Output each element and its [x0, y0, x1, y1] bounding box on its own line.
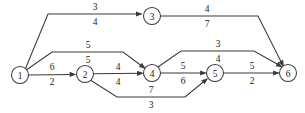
- edge-label-lower: 3: [149, 100, 154, 110]
- graph-node-5[interactable]: 5: [207, 65, 224, 82]
- edge-label-upper: 6: [50, 62, 55, 72]
- arrow-head-icon: [200, 70, 207, 75]
- node-label: 5: [213, 69, 218, 79]
- arrow-head-icon: [136, 11, 143, 16]
- arrow-head-icon: [70, 72, 77, 77]
- edge-label-upper: 3: [216, 39, 221, 49]
- node-label: 1: [18, 71, 23, 81]
- edge-path: [94, 73, 143, 74]
- edge-label-lower: 2: [50, 77, 55, 87]
- graph-node-6[interactable]: 6: [280, 65, 297, 82]
- edge-label-upper: 4: [116, 62, 121, 72]
- network-diagram: 344755624473563452 123456: [0, 0, 305, 113]
- edge-path: [161, 16, 283, 66]
- node-label: 6: [286, 69, 291, 79]
- node-label: 3: [150, 12, 155, 22]
- edge-label-lower: 6: [181, 76, 186, 86]
- arrow-head-icon: [273, 70, 280, 75]
- edge-path: [29, 74, 76, 75]
- graph-node-3[interactable]: 3: [144, 8, 161, 25]
- node-label: 2: [83, 70, 88, 80]
- arrow-head-icon: [137, 71, 144, 76]
- edge-label-upper: 4: [205, 4, 210, 14]
- graph-node-2[interactable]: 2: [77, 66, 94, 83]
- nodes-layer: 123456: [12, 8, 297, 84]
- edge-label-upper: 5: [86, 40, 91, 50]
- edge-label-upper: 7: [149, 85, 154, 95]
- edge-label-upper: 5: [181, 61, 186, 71]
- edge-label-upper: 5: [250, 61, 255, 71]
- graph-node-4[interactable]: 4: [144, 65, 161, 82]
- edge-label-lower: 4: [216, 54, 221, 64]
- edge-path: [26, 14, 142, 69]
- network-diagram-canvas: 344755624473563452 123456: [0, 0, 305, 113]
- edges-layer: [26, 14, 284, 97]
- node-label: 4: [150, 69, 155, 79]
- edge-label-lower: 4: [93, 17, 98, 27]
- graph-node-1[interactable]: 1: [12, 67, 29, 84]
- edge-label-lower: 5: [86, 55, 91, 65]
- edge-label-upper: 3: [93, 2, 98, 12]
- edge-label-lower: 4: [116, 77, 121, 87]
- edge-label-lower: 7: [205, 19, 210, 29]
- edge-label-lower: 2: [250, 76, 255, 86]
